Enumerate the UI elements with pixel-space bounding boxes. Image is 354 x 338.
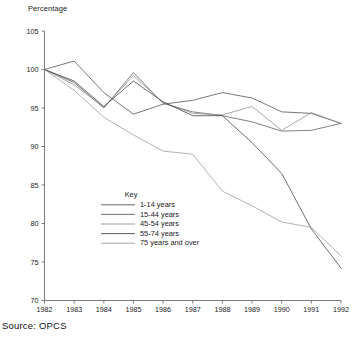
x-tick-label: 1992 <box>333 305 349 314</box>
source-note: Source: OPCS <box>2 320 67 331</box>
x-tick-label: 1991 <box>303 305 319 314</box>
y-tick-label: 105 <box>27 27 39 36</box>
y-tick-group: 707580859095100105 <box>27 27 45 306</box>
x-tick-label: 1989 <box>244 305 260 314</box>
legend-label-1-14-years: 1-14 years <box>140 200 175 209</box>
chart-plot-area: 707580859095100105 198219831984198519861… <box>0 0 354 318</box>
x-tick-label: 1983 <box>66 305 82 314</box>
legend-title: Key <box>125 190 138 199</box>
x-tick-label: 1982 <box>37 305 53 314</box>
series-group <box>45 61 342 268</box>
chart-axes <box>45 31 342 301</box>
legend-label-75-years-and-over: 75 years and over <box>140 238 200 247</box>
x-tick-group: 1982198319841985198619871988198919901991… <box>37 301 350 314</box>
legend-label-15-44-years: 15-44 years <box>140 210 179 219</box>
y-tick-label: 90 <box>31 142 39 151</box>
x-tick-label: 1987 <box>185 305 201 314</box>
y-tick-label: 80 <box>31 219 39 228</box>
legend-label-55-74-years: 55-74 years <box>140 229 179 238</box>
x-tick-label: 1985 <box>125 305 141 314</box>
legend-entries: 1-14 years15-44 years45-54 years55-74 ye… <box>101 200 200 247</box>
legend-label-45-54-years: 45-54 years <box>140 219 179 228</box>
x-tick-label: 1990 <box>274 305 290 314</box>
series-line-1-14-years <box>45 61 342 123</box>
y-tick-label: 85 <box>31 181 39 190</box>
series-line-75-years-and-over <box>45 70 342 256</box>
line-chart-figure: Percentage 707580859095100105 1982198319… <box>0 0 354 338</box>
y-axis-title: Percentage <box>28 4 67 13</box>
chart-legend: Key 1-14 years15-44 years45-54 years55-7… <box>101 190 200 247</box>
y-tick-label: 95 <box>31 104 39 113</box>
y-tick-label: 75 <box>31 258 39 267</box>
y-tick-label: 100 <box>27 65 39 74</box>
x-tick-label: 1986 <box>155 305 171 314</box>
x-tick-label: 1988 <box>214 305 230 314</box>
x-tick-label: 1984 <box>96 305 112 314</box>
